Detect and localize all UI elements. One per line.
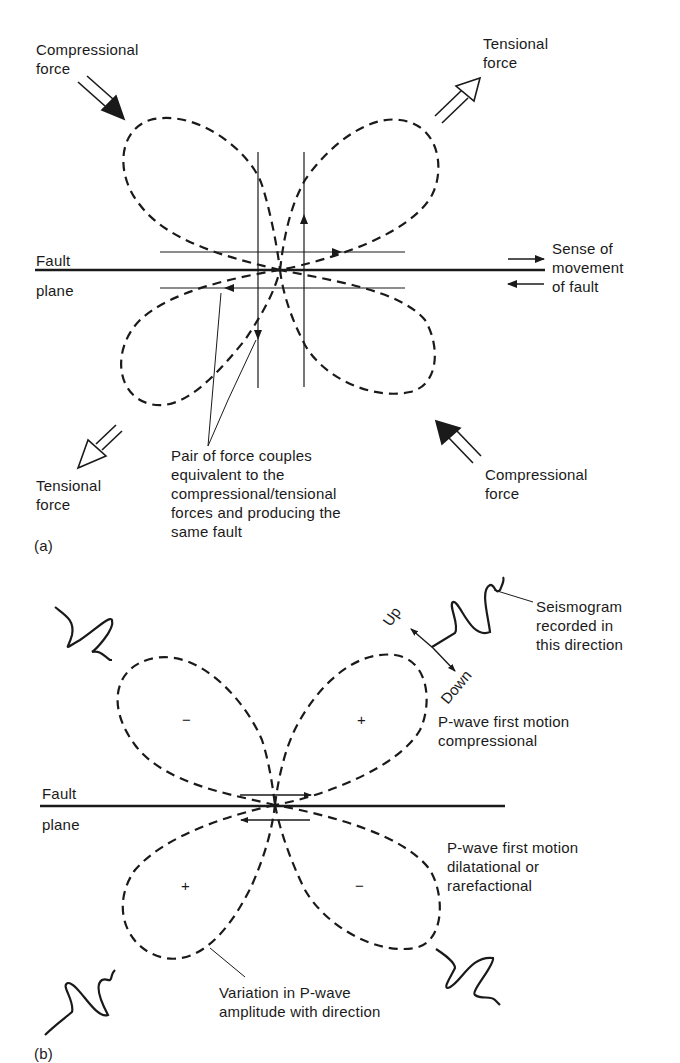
label-compressional-force-top-left: Compressional force [36, 40, 139, 78]
sign-upper-right: + [357, 711, 366, 728]
compressional-arrow-bottom-right [436, 421, 481, 463]
lobe-lower-left-b [123, 805, 275, 959]
tensional-arrow-top-right [435, 78, 480, 123]
sign-lower-right: − [355, 877, 364, 894]
lobe-lower-left [121, 270, 280, 405]
leader-lines-a [208, 293, 256, 446]
seismogram-bottom-right [436, 949, 500, 1005]
label-fault-plane-b: Fault plane [42, 778, 80, 840]
panel-a [35, 76, 545, 468]
lobe-upper-left-b [118, 657, 275, 805]
seismogram-leader [494, 590, 533, 602]
amplitude-leader [210, 948, 245, 977]
radiation-lobes-a [121, 118, 438, 405]
panel-label-a: (a) [34, 536, 53, 555]
sign-lower-left: + [181, 877, 190, 894]
label-force-couples: Pair of force couples equivalent to the … [171, 446, 341, 541]
panel-label-b: (b) [34, 1044, 53, 1063]
seismogram-top-right [432, 577, 504, 647]
label-compressional-force-bottom-right: Compressional force [485, 465, 588, 503]
lobe-upper-right-b [275, 655, 427, 805]
lobe-upper-left [123, 118, 280, 270]
down-arrow [433, 648, 455, 671]
tensional-arrow-bottom-left [78, 425, 122, 468]
label-compressional-first-motion: P-wave first motion compressional [438, 712, 569, 750]
label-seismogram: Seismogram recorded in this direction [536, 597, 623, 654]
label-sense-of-movement: Sense of movement of fault [552, 239, 624, 296]
up-arrow [411, 629, 433, 648]
seismogram-bottom-left [45, 970, 115, 1035]
compressional-arrow-top-left [78, 76, 124, 119]
seismogram-top-left [55, 607, 112, 660]
label-amplitude-variation: Variation in P-wave amplitude with direc… [219, 983, 381, 1021]
label-fault-plane-a: Fault plane [36, 246, 74, 306]
label-tensional-force-top-right: Tensional force [483, 34, 548, 72]
label-tensional-force-bottom-left: Tensional force [36, 476, 101, 514]
label-dilatational-first-motion: P-wave first motion dilatational or rare… [447, 838, 578, 895]
panel-b [40, 577, 533, 1035]
sign-upper-left: − [182, 711, 191, 728]
